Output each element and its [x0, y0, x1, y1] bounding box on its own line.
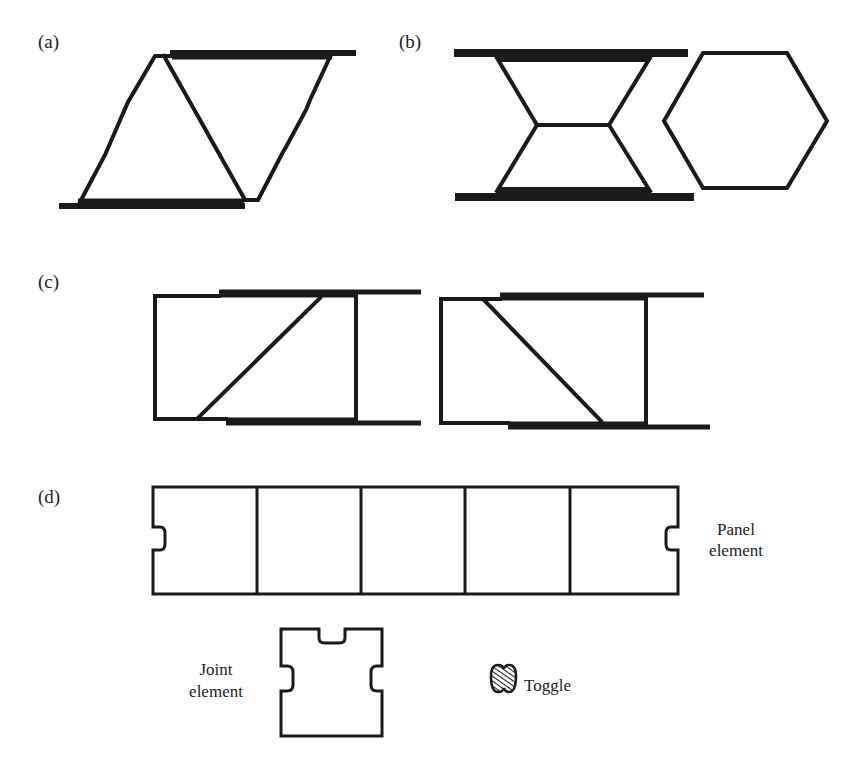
toggle-icon — [491, 665, 516, 692]
hexagon-cell — [664, 53, 827, 188]
joint-outline — [281, 629, 382, 736]
panel-label-b: (b) — [399, 31, 421, 53]
panel-label-c: (c) — [38, 271, 59, 293]
figure-canvas: (a) (b) (c) — [0, 0, 854, 759]
diagonal-brace — [484, 300, 601, 421]
panel-b: (b) — [399, 31, 827, 197]
joint-element-label-line1: Joint — [199, 660, 232, 679]
joint-element — [281, 629, 382, 736]
frame-left — [155, 292, 421, 423]
panel-label-d: (d) — [38, 486, 60, 508]
panel-element-label-line1: Panel — [717, 520, 755, 539]
panel-c: (c) — [38, 271, 710, 427]
toggle-label: Toggle — [524, 676, 571, 695]
reentrant-cell-right-bottom — [609, 125, 650, 191]
panel-d: (d) Panel element Joint element Toggle — [38, 486, 763, 736]
panel-label-a: (a) — [38, 31, 59, 53]
diagonal-link — [164, 56, 244, 198]
diagonal-brace — [198, 298, 320, 418]
toggle-shape — [491, 665, 516, 692]
panel-element — [153, 487, 678, 594]
frame-left-side — [441, 299, 508, 423]
panel-element-label-line2: element — [709, 541, 763, 560]
reentrant-cell-left-bottom — [497, 125, 537, 191]
panel-a: (a) — [38, 31, 356, 206]
right-link — [244, 57, 330, 200]
frame-right — [441, 295, 710, 427]
panel-outline — [153, 487, 678, 594]
joint-element-label-line2: element — [189, 682, 243, 701]
reentrant-cell-top — [497, 58, 650, 125]
left-link — [80, 56, 170, 202]
